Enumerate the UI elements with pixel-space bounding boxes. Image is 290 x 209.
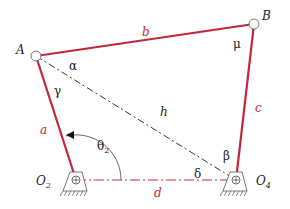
- point-label-o4: O4: [256, 174, 271, 190]
- joint-a: [31, 51, 41, 61]
- angle-label-mu: μ: [233, 37, 241, 51]
- ground-support-o2: [60, 172, 87, 196]
- point-label-a: A: [15, 43, 25, 57]
- point-label-o2: O2: [36, 174, 51, 190]
- theta2-arrowhead-icon: [66, 131, 74, 139]
- joint-b: [249, 19, 259, 29]
- angle-label-gamma: γ: [54, 84, 61, 98]
- link-label-b: b: [142, 25, 150, 39]
- link-label-d: d: [154, 186, 162, 200]
- link-a: [36, 56, 76, 180]
- link-label-c: c: [255, 101, 262, 115]
- ground-support-o4: [220, 172, 247, 196]
- angle-label-delta: δ: [194, 167, 201, 181]
- link-label-a: a: [40, 123, 47, 137]
- point-label-b: B: [261, 9, 271, 23]
- four-bar-linkage-diagram: A B O2 O4 a b c d h α γ μ β δ θ2: [0, 0, 290, 209]
- angle-label-theta2: θ2: [97, 139, 109, 155]
- diagonal-h: [36, 56, 236, 180]
- diagonal-label-h: h: [160, 105, 168, 119]
- angle-label-beta: β: [223, 149, 230, 163]
- angle-label-alpha: α: [69, 59, 77, 73]
